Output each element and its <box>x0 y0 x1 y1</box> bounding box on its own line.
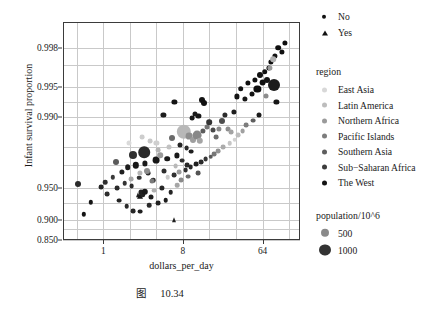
x-axis-tick-mark <box>263 240 264 244</box>
legend-region-label: Southern Asia <box>338 145 392 158</box>
x-axis-tick-mark <box>103 240 104 244</box>
region-color-swatch-icon <box>322 165 327 170</box>
legend-size-label: 1000 <box>338 244 357 257</box>
region-color-swatch-icon <box>322 87 327 92</box>
region-color-swatch-icon <box>322 103 327 108</box>
legend-region-label: Latin America <box>338 99 393 112</box>
population-size-marker-icon <box>321 229 329 237</box>
y-axis-tick-label: 0.900 <box>37 215 58 225</box>
y-axis-tick-label: 0.990 <box>37 112 58 122</box>
legend-region-title: region <box>316 66 341 77</box>
legend-size-label: 500 <box>338 227 352 240</box>
y-axis-tick-label: 0.850 <box>37 235 58 245</box>
triangle-marker-icon <box>322 30 328 35</box>
y-axis-tick-mark <box>58 220 62 221</box>
legend-region-label: East Asia <box>338 83 374 96</box>
population-size-marker-icon <box>319 244 330 255</box>
y-axis-tick-label: 0.995 <box>37 82 58 92</box>
caption-figure-word: 图 <box>136 288 146 299</box>
y-axis-tick-label: 0.998 <box>37 43 58 53</box>
region-color-swatch-icon <box>322 180 327 185</box>
region-color-swatch-icon <box>322 118 327 123</box>
legend-region-label: Sub−Saharan Africa <box>338 161 416 174</box>
x-axis-tick-label: 64 <box>258 246 267 256</box>
y-axis-tick-mark <box>58 47 62 48</box>
plot-frame <box>63 22 300 240</box>
x-axis-tick-label: 1 <box>101 246 106 256</box>
region-color-swatch-icon <box>322 134 327 139</box>
y-axis-tick-mark <box>58 188 62 189</box>
x-axis-tick-label: 8 <box>181 246 186 256</box>
legend-region-label: The West <box>338 176 374 189</box>
plot-area <box>63 22 300 240</box>
figure-container: 0.9980.9950.9900.9500.9000.850 Infant su… <box>0 0 444 314</box>
circle-marker-icon <box>322 14 326 18</box>
caption-number: 10.34 <box>160 288 184 299</box>
x-axis-label: dollars_per_day <box>63 260 300 271</box>
figure-caption: 图10.34 <box>0 285 320 300</box>
legend-size-title: population/10^6 <box>316 210 380 221</box>
y-axis-label: Infant survival proportion <box>23 26 34 206</box>
gridline-horizontal <box>63 240 300 241</box>
y-axis-tick-label: 0.950 <box>37 183 58 193</box>
legend-shape-label: No <box>338 10 350 23</box>
legend-panel: NoYesregionEast AsiaLatin AmericaNorther… <box>316 0 444 300</box>
y-axis-tick-mark <box>58 240 62 241</box>
legend-shape-label: Yes <box>338 26 352 39</box>
region-color-swatch-icon <box>322 149 327 154</box>
y-axis-tick-mark <box>58 117 62 118</box>
legend-region-label: Northern Africa <box>338 114 399 127</box>
legend-region-label: Pacific Islands <box>338 130 394 143</box>
y-axis-tick-mark <box>58 87 62 88</box>
x-axis-tick-mark <box>183 240 184 244</box>
